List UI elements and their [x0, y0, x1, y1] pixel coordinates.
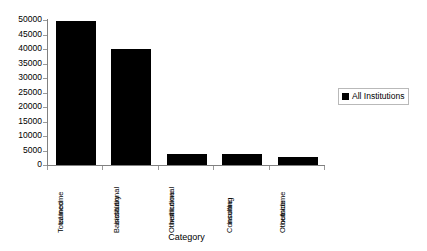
legend-label: All Institutions [352, 92, 404, 101]
y-tick-label: 15000 [2, 117, 42, 126]
x-axis-line [47, 165, 325, 166]
x-category-label-other-outside-income: Other outside income [279, 171, 319, 233]
y-tick-label: 50000 [2, 15, 42, 24]
bar-other-institutional-income[interactable] [167, 154, 207, 165]
y-tick-label: 20000 [2, 102, 42, 111]
chart-legend[interactable]: All Institutions [338, 88, 409, 105]
y-axis-labels: 50000 45000 40000 35000 30000 25000 2000… [0, 0, 42, 251]
x-category-label-line: salary [113, 207, 122, 216]
plot-area [48, 20, 324, 165]
x-axis-tick [158, 166, 159, 170]
legend-swatch-icon [342, 93, 349, 100]
x-category-label-total-earned-income: Total earned income [57, 171, 97, 233]
x-category-label-line: institutional [168, 216, 177, 225]
bar-basic-institutional-salary[interactable] [111, 49, 151, 165]
x-category-label-basic-institutional-salary: Basic institutional salary [113, 171, 153, 233]
y-tick-label: 40000 [2, 44, 42, 53]
x-axis-tick [269, 166, 270, 170]
y-tick-label: 5000 [2, 146, 42, 155]
bar-total-earned-income[interactable] [56, 21, 96, 165]
x-axis-tick [324, 166, 325, 170]
y-tick-label: 25000 [2, 88, 42, 97]
y-tick-label: 45000 [2, 30, 42, 39]
bar-consulting-income[interactable] [222, 154, 262, 165]
x-axis-tick [47, 166, 48, 170]
x-category-label-other-institutional-income: Other institutional income [168, 171, 208, 233]
bar-other-outside-income[interactable] [278, 157, 318, 165]
y-tick-label: 35000 [2, 59, 42, 68]
y-tick-label: 10000 [2, 131, 42, 140]
x-axis-tick [213, 166, 214, 170]
x-category-label-line: income [279, 207, 288, 216]
x-category-label-consulting-income: Consulting income [226, 171, 266, 233]
bar-chart: 50000 45000 40000 35000 30000 25000 2000… [0, 0, 427, 251]
y-tick-label: 30000 [2, 73, 42, 82]
x-axis-title: Category [0, 232, 373, 243]
x-category-label-line: income [226, 216, 235, 225]
x-category-label-line: income [57, 207, 66, 216]
x-category-label-line: income [168, 207, 177, 216]
x-category-label-line: institutional [113, 216, 122, 225]
y-tick-label: 0 [2, 160, 42, 169]
x-category-label-line: outside [279, 216, 288, 225]
x-axis-tick [102, 166, 103, 170]
x-category-label-line: earned [57, 216, 66, 225]
